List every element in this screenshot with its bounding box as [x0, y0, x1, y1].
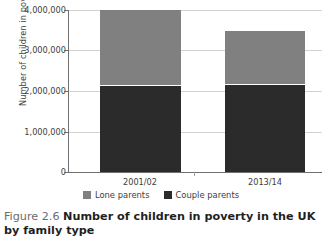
x-tick-label-2013-14: 2013/14 — [213, 177, 317, 187]
figure-container: Number of children in poverty 4,000,000 … — [0, 0, 322, 246]
y-tick-label: 2,000,000 — [14, 87, 66, 95]
bar-2013-14[interactable] — [225, 10, 305, 172]
legend-swatch-icon — [83, 191, 91, 199]
bar-segment-lone-parents[interactable] — [100, 10, 181, 85]
bar-segment-couple-parents[interactable] — [100, 86, 181, 172]
legend-label: Couple parents — [176, 190, 240, 200]
x-axis-line — [68, 172, 322, 173]
chart: Number of children in poverty 4,000,000 … — [0, 0, 322, 200]
legend-item-couple-parents[interactable]: Couple parents — [164, 190, 240, 200]
bar-segment-couple-parents[interactable] — [225, 85, 305, 172]
legend-label: Lone parents — [95, 190, 150, 200]
legend-swatch-icon — [164, 191, 172, 199]
y-tick-label: 0 — [14, 168, 66, 176]
y-tick-label: 3,000,000 — [14, 46, 66, 54]
figure-number: Figure 2.6 — [4, 210, 60, 223]
x-tick-label-2001-02: 2001/02 — [88, 177, 192, 187]
y-tick-label: 1,000,000 — [14, 128, 66, 136]
x-tickmark — [194, 172, 195, 176]
bar-2001-02[interactable] — [100, 10, 181, 172]
y-tick-label: 4,000,000 — [14, 6, 66, 14]
legend-item-lone-parents[interactable]: Lone parents — [83, 190, 150, 200]
bar-segment-lone-parents[interactable] — [225, 31, 305, 84]
legend: Lone parents Couple parents — [0, 190, 322, 200]
plot-area — [68, 10, 322, 172]
y-axis-tick-labels: 4,000,000 3,000,000 2,000,000 1,000,000 … — [10, 0, 66, 200]
figure-caption: Figure 2.6 Number of children in poverty… — [4, 210, 318, 238]
y-axis-line — [68, 10, 69, 173]
